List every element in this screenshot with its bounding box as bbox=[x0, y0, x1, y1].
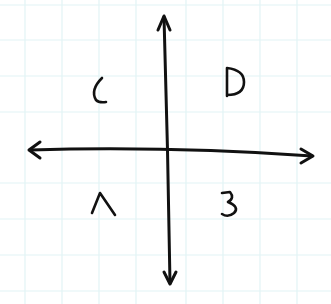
horizontal-axis bbox=[29, 142, 313, 163]
diagram-canvas bbox=[0, 0, 331, 304]
label-d bbox=[227, 68, 244, 96]
label-c bbox=[94, 78, 106, 102]
label-a bbox=[92, 193, 115, 215]
label-b bbox=[222, 192, 236, 216]
